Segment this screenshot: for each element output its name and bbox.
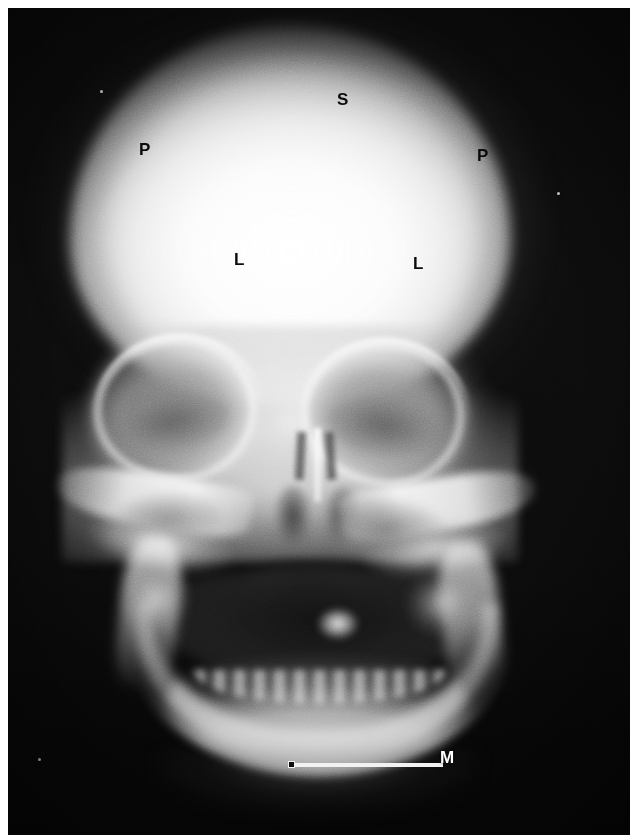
mastoid-left <box>118 564 192 634</box>
nasal-cavity-left <box>276 486 310 550</box>
film-speck <box>38 758 41 761</box>
nasal-septum <box>314 428 321 502</box>
annotation-label-l-right: L <box>413 255 423 272</box>
radiograph-image: S P P L L M <box>8 8 630 835</box>
annotation-label-p-right: P <box>477 147 488 164</box>
annotation-label-p-left: P <box>139 141 150 158</box>
mastoid-right <box>404 568 478 638</box>
measurement-scale-bar <box>290 763 443 767</box>
film-speck <box>100 90 103 93</box>
screenshot-root: S P P L L M <box>0 0 630 839</box>
annotation-label-s: S <box>337 91 348 108</box>
annotation-label-l-left: L <box>234 251 244 268</box>
film-speck <box>557 192 560 195</box>
annotation-label-m: M <box>440 749 454 766</box>
